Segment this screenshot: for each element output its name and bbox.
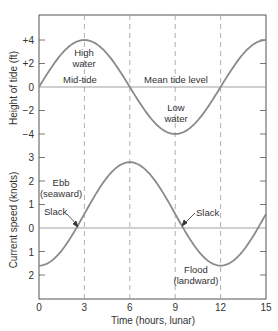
low-water-label: Low	[167, 102, 185, 113]
tide-current-chart: +4 +2 0 −2 −4 3 2 1 0 1 2 0 3 6 9 12 15 …	[0, 0, 278, 331]
tide-y-tick-labels: +4 +2 0 −2 −4	[23, 35, 35, 140]
ebb-label-2: (seaward)	[40, 188, 82, 199]
svg-text:1: 1	[28, 247, 34, 258]
ebb-label: Ebb	[53, 177, 70, 188]
flood-label-2: (landward)	[174, 275, 219, 286]
x-axis-title: Time (hours, lunar)	[111, 315, 195, 326]
low-water-label-2: water	[163, 113, 187, 124]
tide-y-axis-title: Height of tide (ft)	[8, 51, 19, 125]
current-speed-curve	[39, 162, 266, 265]
flood-label: Flood	[184, 264, 208, 275]
slack-label-left: Slack	[44, 206, 67, 217]
tide-annotations: High water Mid-tide Mean tide level Low …	[63, 47, 208, 124]
svg-text:2: 2	[28, 176, 34, 187]
current-y-tick-labels: 3 2 1 0 1 2	[28, 152, 34, 281]
high-water-label: High	[74, 47, 94, 58]
x-tick-labels: 0 3 6 9 12 15	[36, 302, 272, 313]
mid-tide-label: Mid-tide	[63, 74, 97, 85]
svg-text:15: 15	[260, 302, 272, 313]
slack-label-right: Slack	[196, 207, 219, 218]
svg-text:3: 3	[28, 152, 34, 163]
svg-text:−4: −4	[23, 129, 35, 140]
svg-text:0: 0	[36, 302, 42, 313]
svg-text:0: 0	[28, 82, 34, 93]
vertical-gridlines	[84, 15, 220, 299]
svg-text:3: 3	[82, 302, 88, 313]
high-water-label-2: water	[71, 58, 95, 69]
svg-text:6: 6	[127, 302, 133, 313]
svg-text:+2: +2	[23, 58, 35, 69]
svg-text:9: 9	[172, 302, 178, 313]
svg-text:−2: −2	[23, 105, 35, 116]
svg-text:12: 12	[215, 302, 227, 313]
svg-text:+4: +4	[23, 35, 35, 46]
mean-tide-level-label: Mean tide level	[144, 74, 208, 85]
current-y-axis-title: Current speed (knots)	[8, 172, 19, 269]
svg-text:1: 1	[28, 199, 34, 210]
svg-text:0: 0	[28, 223, 34, 234]
svg-text:2: 2	[28, 270, 34, 281]
